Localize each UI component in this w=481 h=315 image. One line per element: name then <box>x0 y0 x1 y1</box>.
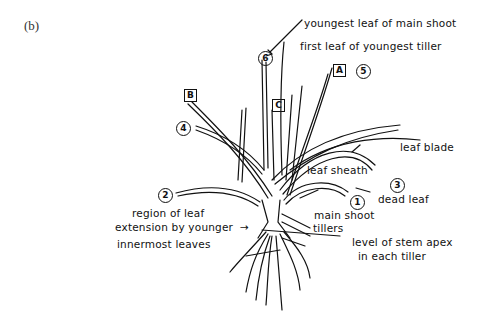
leaf-number-1: 1 <box>350 195 365 210</box>
leaf-number-3: 3 <box>390 178 405 193</box>
label-region-line1: region of leaf <box>132 207 204 219</box>
leaf-number-4: 4 <box>176 121 191 136</box>
label-region-arrow: → <box>240 221 249 233</box>
label-youngest-leaf: youngest leaf of main shoot <box>304 17 456 29</box>
leaf-number-5: 5 <box>356 64 371 79</box>
label-tillers: tillers <box>313 222 344 234</box>
leaf-number-6: 6 <box>258 51 273 66</box>
label-first-leaf-tiller: first leaf of youngest tiller <box>300 40 442 52</box>
label-leaf-sheath: leaf sheath <box>307 164 368 176</box>
tiller-marker-b: B <box>184 89 197 102</box>
label-dead-leaf: dead leaf <box>378 193 429 205</box>
label-region-line2: extension by younger <box>115 221 233 233</box>
leaf-number-2: 2 <box>158 188 173 203</box>
label-leaf-blade: leaf blade <box>400 141 454 153</box>
label-stem-apex-line1: level of stem apex <box>352 236 453 248</box>
label-main-shoot: main shoot <box>314 209 375 221</box>
tiller-marker-c: C <box>272 99 285 112</box>
label-stem-apex-line2: in each tiller <box>358 250 426 262</box>
tiller-marker-a: A <box>333 64 346 77</box>
label-innermost: innermost leaves <box>117 238 211 250</box>
